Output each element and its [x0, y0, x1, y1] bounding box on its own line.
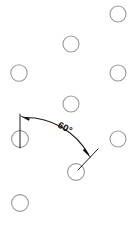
node-mid-right: [110, 65, 126, 81]
arc-end-arrowhead: [83, 149, 91, 158]
node-center: [63, 96, 79, 112]
arc-start-arrowhead: [21, 116, 30, 121]
node-right-lower: [110, 131, 126, 147]
node-group: [11, 6, 126, 211]
node-top-center: [63, 36, 79, 52]
radial-reference-line: [78, 149, 98, 170]
angle-diagram-figure: 60°: [0, 0, 137, 226]
node-bottom-left: [12, 195, 29, 212]
node-top-right: [110, 6, 126, 22]
diagram-canvas: 60°: [0, 0, 137, 226]
angle-label: 60°: [56, 119, 74, 136]
node-mid-left: [11, 65, 27, 81]
angle-arc: [25, 117, 89, 154]
